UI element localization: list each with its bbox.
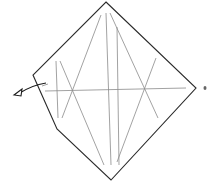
fold-diagram <box>0 0 207 181</box>
side-mark <box>204 86 207 90</box>
arrowhead-icon <box>14 89 22 96</box>
